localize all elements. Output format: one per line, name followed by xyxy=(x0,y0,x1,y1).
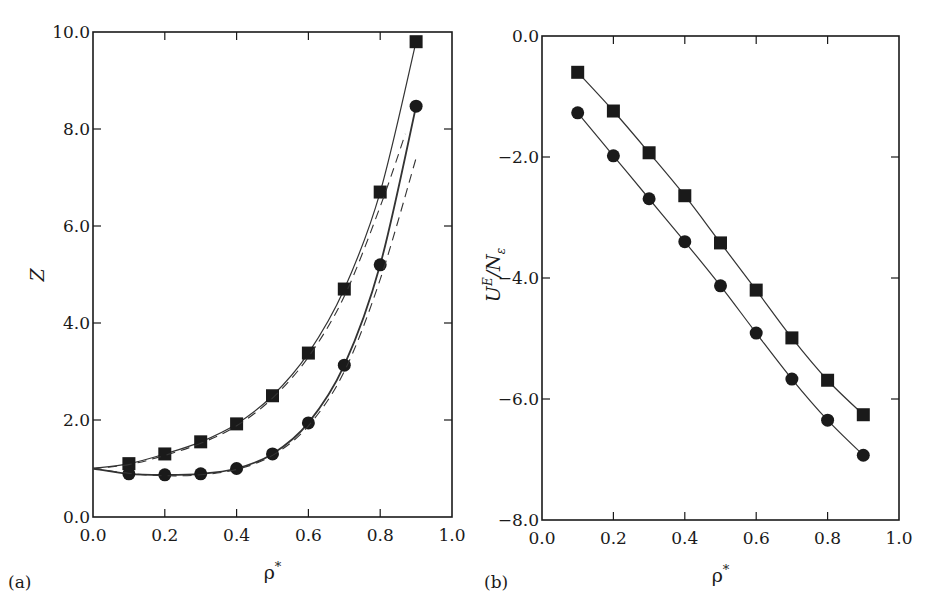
square-marker xyxy=(821,374,834,387)
y-tick-label: 8.0 xyxy=(63,119,90,139)
square-marker xyxy=(607,105,620,118)
y-tick-label: −8.0 xyxy=(498,510,539,530)
square-marker xyxy=(643,146,656,159)
y-tick-label: −2.0 xyxy=(498,147,539,167)
square-marker xyxy=(266,389,279,402)
y-tick-label: 0.0 xyxy=(512,26,539,46)
circle-marker xyxy=(194,467,207,480)
y-tick-label: 4.0 xyxy=(63,313,90,333)
circle-marker xyxy=(266,447,279,460)
circle-marker xyxy=(821,414,834,427)
y-tick-label: 0.0 xyxy=(63,507,90,527)
square-marker xyxy=(714,236,727,249)
circle-marker xyxy=(857,449,870,462)
circle-marker xyxy=(410,100,423,113)
x-tick-label: 0.6 xyxy=(295,525,322,545)
x-tick-label: 0.6 xyxy=(743,528,770,548)
chart-panel-a: 0.00.20.40.60.81.00.02.04.06.08.010.0ρ*Z… xyxy=(8,22,466,592)
x-tick-label: 0.8 xyxy=(367,525,394,545)
x-axis-title: ρ* xyxy=(264,559,282,583)
circle-marker xyxy=(678,235,691,248)
series-line-square xyxy=(93,42,416,469)
square-marker xyxy=(678,189,691,202)
square-marker xyxy=(338,283,351,296)
circle-marker xyxy=(750,327,763,340)
x-tick-label: 0.8 xyxy=(814,528,841,548)
plot-frame xyxy=(93,32,452,517)
y-axis-title: Z xyxy=(26,268,48,283)
chart-panel-b: 0.00.20.40.60.81.0−8.0−6.0−4.0−2.00.0ρ*U… xyxy=(481,26,913,592)
circle-marker xyxy=(714,279,727,292)
series-line-circle xyxy=(93,106,416,475)
y-axis-title: UE/Nε xyxy=(481,248,508,302)
square-marker xyxy=(302,347,315,360)
square-marker xyxy=(194,435,207,448)
x-tick-label: 0.2 xyxy=(600,528,627,548)
x-tick-label: 0.4 xyxy=(223,525,250,545)
y-tick-label: 2.0 xyxy=(63,410,90,430)
square-marker xyxy=(230,417,243,430)
circle-marker xyxy=(302,416,315,429)
x-tick-label: 0.0 xyxy=(79,525,106,545)
x-tick-label: 0.4 xyxy=(671,528,698,548)
x-tick-label: 0.2 xyxy=(151,525,178,545)
x-tick-label: 1.0 xyxy=(438,525,465,545)
square-marker xyxy=(857,408,870,421)
square-marker xyxy=(750,284,763,297)
circle-marker xyxy=(643,192,656,205)
circle-marker xyxy=(785,373,798,386)
theory-curve-dashed xyxy=(93,134,405,469)
y-tick-label: −6.0 xyxy=(498,389,539,409)
circle-marker xyxy=(158,468,171,481)
circle-marker xyxy=(607,149,620,162)
square-marker xyxy=(571,66,584,79)
circle-marker xyxy=(571,106,584,119)
panel-label: (a) xyxy=(8,572,31,592)
square-marker xyxy=(410,35,423,48)
figure: 0.00.20.40.60.81.00.02.04.06.08.010.0ρ*Z… xyxy=(0,0,936,603)
plot-frame xyxy=(542,36,899,520)
square-marker xyxy=(785,331,798,344)
panel-label: (b) xyxy=(484,572,508,592)
theory-curve-dashed xyxy=(93,158,416,476)
x-axis-title: ρ* xyxy=(712,562,730,586)
y-tick-label: 6.0 xyxy=(63,216,90,236)
y-tick-label: 10.0 xyxy=(52,22,90,42)
x-tick-label: 1.0 xyxy=(885,528,912,548)
x-tick-label: 0.0 xyxy=(528,528,555,548)
circle-marker xyxy=(230,462,243,475)
square-marker xyxy=(374,186,387,199)
